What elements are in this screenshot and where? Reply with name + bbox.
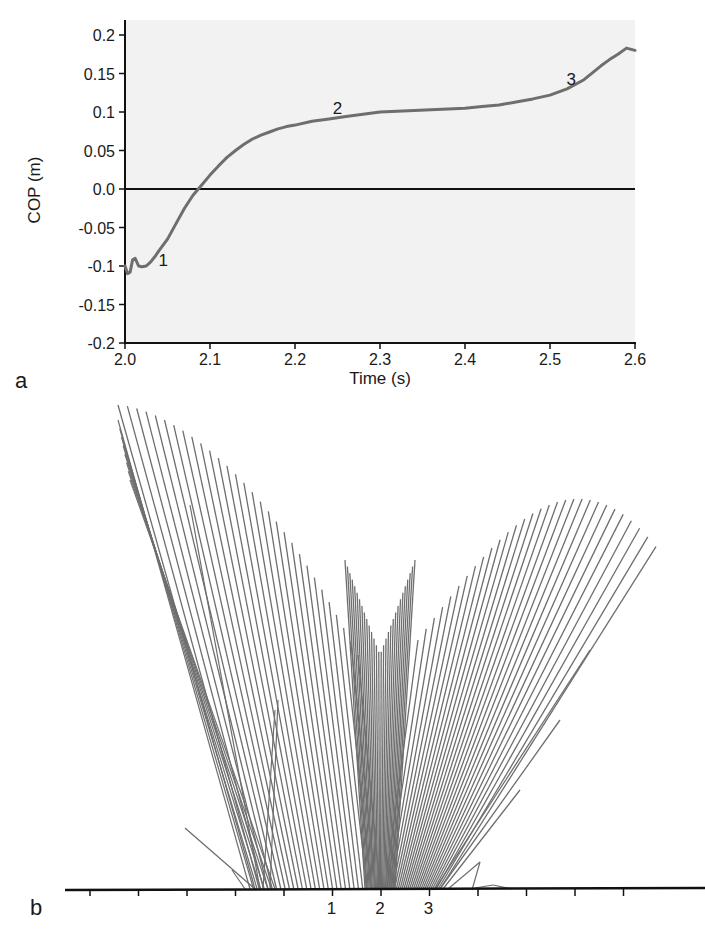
segment-line (381, 652, 382, 889)
y-tick-label: 0.15 (84, 66, 115, 83)
y-tick-label: -0.1 (87, 258, 115, 275)
segment-line (364, 612, 373, 889)
segment-line (413, 509, 541, 889)
y-tick-label: 0.0 (93, 181, 115, 198)
segment-line (183, 431, 285, 889)
segment-line (412, 513, 533, 889)
y-tick-label: 0.1 (93, 104, 115, 121)
x-tick-label: 2.3 (369, 351, 391, 368)
segment-line (404, 540, 500, 889)
segment-line (314, 578, 354, 889)
segment-line (421, 499, 574, 889)
segment-line (192, 437, 290, 889)
segment-line (472, 862, 480, 890)
segment-line (432, 514, 623, 889)
segment-line (417, 502, 557, 889)
segment-line (118, 420, 250, 889)
segment-line (165, 420, 277, 889)
segment-line (394, 586, 459, 889)
segment-line (431, 509, 615, 889)
segment-line (440, 720, 560, 889)
ground-position-label: 2 (375, 899, 384, 918)
segment-line (423, 499, 582, 889)
segment-line (137, 408, 264, 889)
segment-line (322, 590, 359, 889)
segment-line (123, 446, 261, 889)
segment-line (393, 573, 410, 889)
segment-line (121, 437, 257, 889)
segment-line (350, 573, 367, 889)
segment-line (268, 511, 328, 889)
y-tick-label: -0.2 (87, 335, 115, 352)
segment-line (351, 641, 376, 889)
segment-line (386, 619, 394, 889)
ground-line (65, 888, 705, 890)
segment-line (408, 525, 517, 889)
segment-line (390, 593, 403, 889)
segment-line (385, 626, 391, 889)
segment-line (395, 560, 415, 889)
segment-line (218, 458, 302, 889)
segment-line (174, 425, 281, 889)
x-tick-label: 2.5 (539, 351, 561, 368)
segment-line (146, 412, 268, 889)
segment-line (383, 639, 386, 889)
segment-line (355, 586, 369, 889)
segment-line (435, 650, 590, 889)
segment-line (387, 629, 426, 889)
segment-line (227, 466, 307, 889)
segment-line (292, 543, 341, 889)
segment-line (402, 548, 492, 889)
segment-line (385, 640, 418, 889)
x-tick-label: 2.0 (114, 351, 136, 368)
segment-line (276, 522, 332, 889)
segment-line (336, 615, 367, 889)
segment-line (425, 500, 591, 889)
segment-line (244, 483, 315, 889)
segment-line (299, 554, 345, 889)
segment-line (307, 566, 350, 889)
segment-line (190, 505, 260, 889)
segment-line (374, 639, 377, 889)
segment-line (232, 870, 245, 889)
segment-line (410, 519, 525, 889)
segment-line (427, 502, 599, 889)
segment-line (387, 612, 396, 889)
segment-line (369, 626, 375, 889)
segment-line (448, 862, 480, 889)
segment-line (429, 505, 607, 889)
plot-background (125, 20, 635, 343)
segment-line (389, 618, 435, 889)
segment-line (443, 790, 520, 889)
segment-line (392, 580, 408, 889)
segment-line (376, 645, 378, 889)
segment-line (358, 655, 380, 889)
segment-line (252, 492, 320, 889)
segment-line (357, 593, 370, 889)
segment-line (419, 500, 566, 889)
segment-line (367, 619, 375, 889)
segment-line (118, 405, 255, 889)
segment-line (235, 474, 311, 889)
ground-position-label: 3 (424, 899, 433, 918)
segment-line (493, 885, 512, 889)
segment-line (263, 710, 275, 889)
segment-line (475, 885, 493, 888)
segment-line (344, 628, 372, 889)
segment-line (347, 567, 366, 889)
segment-line (382, 645, 384, 889)
segment-line (359, 599, 371, 889)
segment-line (394, 567, 413, 889)
segment-line (372, 632, 377, 889)
segment-line (415, 505, 549, 889)
segment-line (379, 652, 380, 889)
segment-line (127, 463, 268, 889)
segment-line (391, 607, 443, 889)
segment-line (393, 596, 451, 889)
cop-chart: 0.20.150.10.050.0-0.05-0.1-0.15-0.2 2.02… (0, 0, 705, 400)
segment-line (388, 606, 398, 889)
segment-line (128, 471, 271, 889)
segment-line (406, 532, 508, 889)
panel-label-a: a (15, 368, 28, 393)
segment-line (434, 521, 631, 889)
